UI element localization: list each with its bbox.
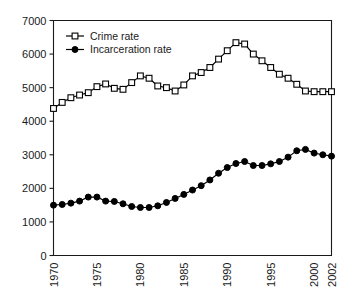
x-tick-label: 1990: [221, 263, 233, 287]
y-tick-label: 1000: [22, 216, 46, 228]
data-point-marker: [276, 159, 282, 165]
data-point-marker: [146, 75, 152, 81]
data-series-layer: [51, 40, 335, 211]
data-point-marker: [163, 199, 169, 205]
data-point-marker: [224, 165, 230, 171]
data-point-marker: [59, 201, 65, 207]
x-tick-label: 1970: [48, 263, 60, 287]
x-axis-tick-labels: 19701975198019851990199520002002: [48, 263, 338, 287]
data-point-marker: [120, 86, 126, 92]
data-point-marker: [129, 203, 135, 209]
data-point-marker: [94, 84, 100, 90]
data-point-marker: [276, 71, 282, 77]
data-point-marker: [242, 159, 248, 165]
data-point-marker: [111, 198, 117, 204]
data-point-marker: [285, 154, 291, 160]
data-point-marker: [129, 80, 135, 86]
data-point-marker: [268, 161, 274, 167]
data-point-marker: [77, 92, 83, 98]
data-point-marker: [303, 88, 309, 94]
data-point-marker: [320, 152, 326, 158]
data-point-marker: [216, 170, 222, 176]
y-tick-label: 5000: [22, 82, 46, 94]
data-point-marker: [85, 90, 91, 96]
y-tick-label: 0: [40, 250, 46, 262]
legend-marker-open-square-icon: [72, 33, 78, 39]
legend-marker-filled-circle-icon: [72, 47, 78, 53]
data-point-marker: [216, 56, 222, 62]
data-point-marker: [103, 81, 109, 87]
x-tick-label: 1980: [134, 263, 146, 287]
data-point-marker: [242, 41, 248, 47]
axis-frame: [54, 21, 332, 256]
data-point-marker: [268, 65, 274, 71]
chart-legend: Crime rateIncarceration rate: [66, 30, 172, 56]
x-tick-label: 1995: [265, 263, 277, 287]
y-axis-tick-labels: 01000200030004000500060007000: [22, 15, 46, 262]
legend-label: Incarceration rate: [90, 43, 172, 55]
series-incarceration-rate: [51, 146, 335, 210]
line-chart: 01000200030004000500060007000 1970197519…: [0, 0, 339, 299]
data-point-marker: [68, 200, 74, 206]
data-point-marker: [329, 89, 335, 95]
y-tick-label: 7000: [22, 15, 46, 27]
data-point-marker: [51, 202, 57, 208]
data-point-marker: [85, 194, 91, 200]
data-point-marker: [207, 65, 213, 71]
data-point-marker: [77, 198, 83, 204]
data-point-marker: [294, 148, 300, 154]
plot-frame: [54, 21, 332, 256]
data-point-marker: [320, 89, 326, 95]
x-tick-label: 2000: [308, 263, 320, 287]
data-point-marker: [250, 163, 256, 169]
data-point-marker: [190, 73, 196, 79]
y-axis-tick-marks: [50, 21, 54, 256]
y-tick-label: 6000: [22, 48, 46, 60]
data-point-marker: [285, 75, 291, 81]
legend-label: Crime rate: [90, 30, 139, 42]
data-point-marker: [68, 95, 74, 101]
x-tick-label: 1975: [91, 263, 103, 287]
x-tick-label: 1985: [178, 263, 190, 287]
data-point-marker: [250, 51, 256, 57]
data-point-marker: [259, 58, 265, 64]
data-point-marker: [146, 204, 152, 210]
data-point-marker: [172, 88, 178, 94]
data-point-marker: [172, 195, 178, 201]
legend-entry: Incarceration rate: [66, 43, 172, 55]
data-point-marker: [233, 161, 239, 167]
chart-container: 01000200030004000500060007000 1970197519…: [0, 0, 339, 299]
data-point-marker: [155, 203, 161, 209]
data-point-marker: [137, 73, 143, 79]
data-point-marker: [198, 70, 204, 76]
data-point-marker: [198, 183, 204, 189]
data-point-marker: [181, 82, 187, 88]
data-point-marker: [120, 201, 126, 207]
y-tick-label: 4000: [22, 115, 46, 127]
y-tick-label: 2000: [22, 182, 46, 194]
data-point-marker: [59, 100, 65, 106]
data-point-marker: [181, 191, 187, 197]
legend-entry: Crime rate: [66, 30, 139, 42]
data-point-marker: [224, 48, 230, 54]
data-point-marker: [311, 89, 317, 95]
data-point-marker: [137, 204, 143, 210]
data-point-marker: [94, 194, 100, 200]
data-point-marker: [233, 40, 239, 46]
data-point-marker: [302, 146, 308, 152]
data-point-marker: [207, 177, 213, 183]
data-point-marker: [51, 106, 57, 112]
data-point-marker: [164, 85, 170, 91]
data-point-marker: [155, 83, 161, 89]
data-point-marker: [259, 163, 265, 169]
x-tick-label: 2002: [326, 263, 338, 287]
y-tick-label: 3000: [22, 149, 46, 161]
data-point-marker: [190, 187, 196, 193]
data-point-marker: [103, 198, 109, 204]
data-point-marker: [294, 81, 300, 87]
data-point-marker: [111, 85, 117, 91]
data-point-marker: [311, 150, 317, 156]
data-point-marker: [329, 153, 335, 159]
